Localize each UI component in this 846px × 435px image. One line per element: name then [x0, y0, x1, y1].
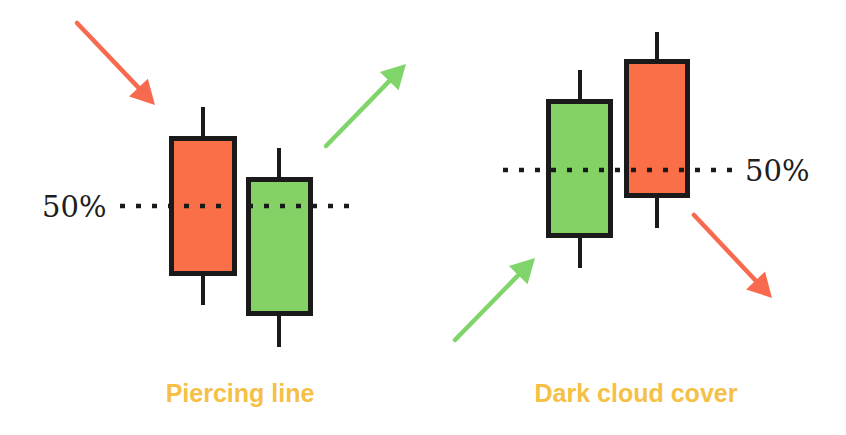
dark-cloud-cover-caption: Dark cloud cover [535, 379, 738, 407]
piercing-line-caption: Piercing line [166, 379, 315, 407]
arrow-up-icon [326, 64, 406, 146]
bearish-candle [627, 32, 688, 228]
bullish-candle [249, 148, 311, 347]
dark-cloud-cover-pattern: 50%Dark cloud cover [455, 32, 809, 407]
midpoint-label: 50% [745, 154, 809, 188]
candle-body [627, 62, 688, 196]
candle-body [249, 180, 311, 314]
piercing-line-pattern: 50%Piercing line [42, 23, 406, 407]
arrow-down-icon [77, 23, 155, 105]
arrow-down-icon [694, 215, 772, 298]
arrow-up-icon [455, 258, 535, 340]
midpoint-label: 50% [42, 190, 106, 224]
candlestick-patterns-diagram: 50%Piercing line 50%Dark cloud cover [0, 0, 846, 435]
